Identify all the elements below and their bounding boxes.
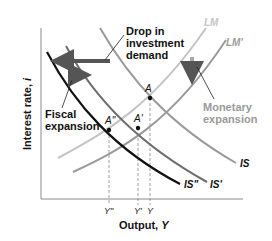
label-a-double-prime: A" bbox=[104, 115, 116, 126]
x-axis-title: Output, Y bbox=[119, 219, 170, 231]
point-a bbox=[148, 96, 152, 100]
point-a-prime bbox=[136, 126, 140, 130]
leader-monetary bbox=[197, 67, 214, 99]
tick-y: Y bbox=[147, 206, 154, 216]
label-a: A bbox=[144, 83, 152, 94]
label-is-double-prime: IS" bbox=[184, 179, 198, 190]
tick-y-double-prime: Y" bbox=[104, 206, 114, 216]
tick-y-prime: Y' bbox=[134, 206, 142, 216]
label-is: IS bbox=[240, 158, 250, 169]
label-is-prime: IS' bbox=[210, 179, 222, 190]
y-axis-title: Interest rate, i bbox=[21, 77, 33, 150]
point-a-double-prime bbox=[107, 128, 111, 132]
label-lm-prime: LM' bbox=[226, 37, 243, 48]
annotation-fiscal-expansion: Fiscal expansion bbox=[45, 108, 100, 132]
annotation-drop-investment: Drop in investment demand bbox=[126, 25, 187, 61]
leader-drop bbox=[105, 35, 124, 60]
label-lm: LM bbox=[204, 17, 219, 28]
is-lm-diagram: A A' A" LM LM' IS IS' IS" Drop in invest… bbox=[0, 0, 272, 241]
label-a-prime: A' bbox=[133, 113, 144, 124]
annotation-monetary-expansion: Monetary expansion bbox=[203, 101, 258, 125]
diagram-frame: A A' A" LM LM' IS IS' IS" Drop in invest… bbox=[0, 0, 272, 241]
